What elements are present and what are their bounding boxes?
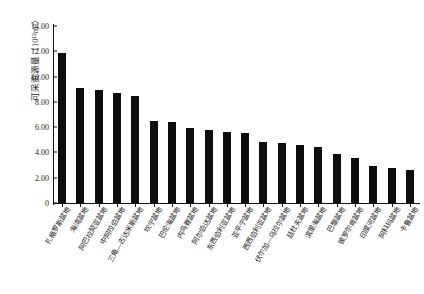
y-tick-label: 2.00 — [35, 173, 53, 182]
x-tick-mark — [99, 203, 100, 207]
x-tick-mark — [300, 203, 301, 207]
bars-layer — [53, 26, 419, 203]
y-tick-label: 12.00 — [31, 47, 53, 56]
x-tick-mark — [190, 203, 191, 207]
bar — [351, 158, 359, 204]
bar — [296, 145, 304, 203]
x-tick-mark — [117, 203, 118, 207]
x-tick-mark — [373, 203, 374, 207]
bar — [388, 168, 396, 203]
y-tick-label: 14.00 — [31, 22, 53, 31]
bar — [150, 121, 158, 203]
x-tick-label: 扎格罗斯盆地 — [44, 206, 73, 247]
bar — [205, 130, 213, 203]
y-tick-mark — [53, 76, 57, 77]
y-tick-mark — [53, 51, 57, 52]
bar — [113, 93, 121, 203]
y-tick-mark — [53, 26, 57, 27]
x-tick-mark — [135, 203, 136, 207]
x-tick-mark — [209, 203, 210, 207]
x-tick-mark — [318, 203, 319, 207]
x-tick-mark — [392, 203, 393, 207]
x-tick-mark — [154, 203, 155, 207]
y-tick-mark — [53, 152, 57, 153]
bar — [76, 88, 84, 203]
x-tick-mark — [410, 203, 411, 207]
bar — [95, 90, 103, 203]
bar — [369, 166, 377, 203]
bar — [223, 132, 231, 203]
bar — [241, 133, 249, 203]
plot-area: 14.0012.0010.008.006.004.002.000 — [53, 26, 419, 203]
y-tick-mark — [53, 177, 57, 178]
y-tick-label: 8.00 — [35, 97, 53, 106]
bar — [131, 96, 139, 203]
bar — [259, 142, 267, 203]
bar — [186, 128, 194, 203]
x-tick-mark — [62, 203, 63, 207]
bar — [314, 147, 322, 203]
y-tick-label: 4.00 — [35, 148, 53, 157]
x-tick-mark — [337, 203, 338, 207]
y-tick-label: 10.00 — [31, 72, 53, 81]
y-tick-label: 0 — [45, 199, 53, 208]
bar — [58, 53, 66, 203]
bar — [278, 143, 286, 203]
bar — [333, 154, 341, 203]
y-tick-mark — [53, 101, 57, 102]
x-axis-labels: 扎格罗斯盆地海湾盆地阿巴拉契亚盆地中阿拉伯盆地三角—古达米斯盆地坎宁盆地巴伦海盆… — [53, 208, 420, 294]
bar — [406, 170, 414, 204]
x-tick-mark — [172, 203, 173, 207]
bar — [168, 122, 176, 203]
bar-chart: 可采资源量（10¹²m³） 14.0012.0010.008.006.004.0… — [0, 0, 424, 294]
y-tick-mark — [53, 127, 57, 128]
x-tick-mark — [227, 203, 228, 207]
x-tick-mark — [355, 203, 356, 207]
y-tick-label: 6.00 — [35, 123, 53, 132]
x-tick-mark — [245, 203, 246, 207]
x-tick-mark — [282, 203, 283, 207]
